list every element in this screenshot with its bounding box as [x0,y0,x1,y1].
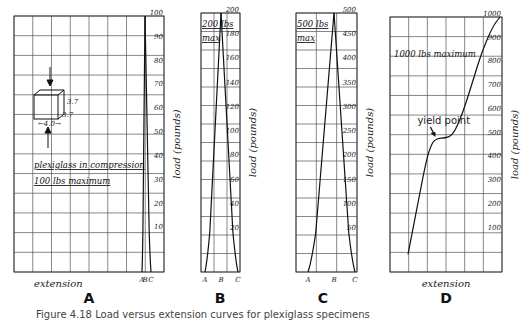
x-mark-c: C [148,276,154,284]
y-axis-label: load (pounds) [364,108,375,177]
max-load-note: 200 lbs [201,19,234,29]
panel-label-c: C [318,290,328,306]
y-tick-label: 500 [343,6,357,14]
max-load-note: 1000 lbs maximum [394,49,476,59]
y-tick-label: 1000 [483,10,501,18]
y-tick-label: 70 [154,80,163,88]
y-tick-label: 100 [343,200,357,208]
y-tick-label: 100 [150,9,164,17]
y-tick-label: 400 [342,54,357,62]
x-mark-a: A [304,276,310,284]
specimen-cube-icon [34,67,64,148]
dim-width: ←4.0→ [38,120,61,128]
x-axis-label: extension [34,278,83,289]
grid [14,16,164,272]
x-axis-label: extension [422,278,471,289]
figure-caption: Figure 4.18 Load versus extension curves… [36,309,370,320]
max-load-note: 100 lbs maximum [34,176,110,186]
grid [296,13,357,272]
max-load-note-2: max [202,33,220,43]
y-tick-label: 20 [229,224,239,232]
y-tick-label: 30 [154,176,163,184]
y-tick-label: 10 [154,223,163,231]
dim-depth: 3.7 [62,111,74,119]
y-tick-label: 60 [230,176,239,184]
y-tick-label: 90 [154,33,163,41]
x-mark-b: B [217,276,223,284]
chart-panel-c: 50100150200250300350400450500load (pound… [296,6,375,306]
grid [201,13,240,272]
y-tick-label: 200 [225,6,240,14]
y-tick-label: 50 [154,128,163,136]
max-load-note: 500 lbs [297,19,329,29]
y-axis-label: load (pounds) [247,108,258,177]
yield-point-label: yield point [417,115,470,126]
unloading-curve [145,16,151,272]
specimen-note: plexiglass in compression [34,160,145,170]
max-load-note-2: max [297,33,315,43]
y-tick-label: 100 [488,224,502,232]
y-tick-label: 180 [226,30,240,38]
y-tick-label: 160 [226,54,240,62]
y-tick-label: 40 [153,152,163,160]
panel-label-a: A [84,290,95,306]
y-tick-label: 400 [487,152,502,160]
y-axis-label: load (pounds) [171,109,182,178]
loading-curve [142,16,145,272]
y-tick-label: 350 [343,79,357,87]
chart-panel-d: 1002003004005006007008009001000load (pou… [390,10,520,306]
x-mark-c: C [352,276,358,284]
y-tick-label: 500 [488,129,502,137]
y-tick-label: 200 [487,200,502,208]
y-tick-label: 300 [343,103,357,111]
y-axis-label: load (pounds) [509,110,520,179]
y-tick-label: 300 [488,176,502,184]
dim-height: 3.7 [67,98,79,106]
x-mark-c: C [235,276,241,284]
chart-panel-a: 102030405060708090100load (pounds)ABCple… [14,9,182,306]
chart-panel-b: 20406080100120140160180200load (pounds)A… [201,6,258,306]
x-mark-b: B [141,276,147,284]
panel-label-b: B [215,290,226,306]
y-tick-label: 250 [342,127,357,135]
y-tick-label: 60 [154,104,163,112]
y-tick-label: 600 [488,105,502,113]
y-tick-label: 800 [488,57,502,65]
y-tick-label: 20 [153,200,163,208]
x-mark-b: B [330,276,336,284]
x-mark-a: A [201,276,207,284]
y-tick-label: 80 [230,151,239,159]
panel-label-d: D [440,290,452,306]
y-tick-label: 140 [226,79,240,87]
y-tick-label: 700 [488,81,502,89]
y-tick-label: 80 [154,57,163,65]
y-tick-label: 450 [342,30,357,38]
y-tick-label: 120 [226,103,240,111]
